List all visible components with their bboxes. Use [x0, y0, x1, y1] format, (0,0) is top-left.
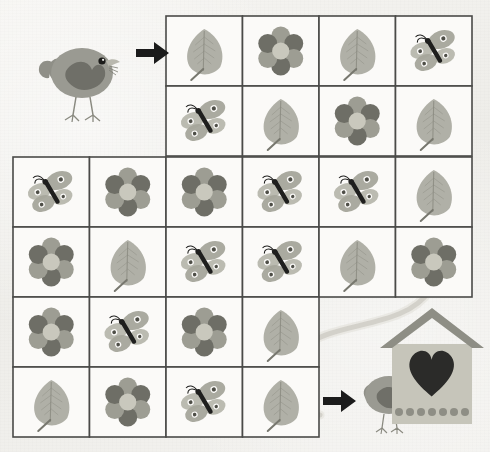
arrow-right-icon: [136, 42, 169, 64]
birdhouse-icon: [380, 308, 484, 424]
goal-arrow-right-icon: [323, 390, 356, 412]
worksheet-scene: [0, 0, 490, 452]
start-bird: [39, 48, 120, 122]
